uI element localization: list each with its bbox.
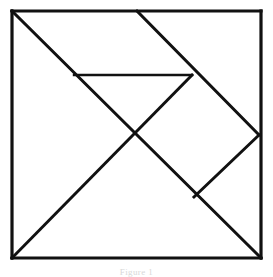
figure-caption: Figure 1 (0, 267, 273, 277)
